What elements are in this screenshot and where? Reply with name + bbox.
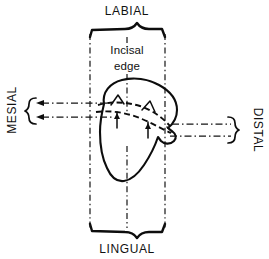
label-incisal-edge-line1: Incisal bbox=[110, 44, 143, 56]
mamelon-tick-mesial bbox=[114, 112, 120, 128]
label-incisal-edge-line2: edge bbox=[114, 60, 140, 72]
label-distal: DISTAL bbox=[251, 108, 265, 153]
tooth-diagram-figure: LABIAL LINGUAL MESIAL DISTAL Incisal edg… bbox=[0, 0, 269, 259]
incisal-edge-ridge bbox=[98, 102, 170, 126]
lingual-brace bbox=[90, 224, 165, 238]
label-labial: LABIAL bbox=[105, 4, 149, 18]
labial-brace bbox=[90, 23, 165, 37]
incisal-edge-ridge-lower bbox=[96, 111, 171, 133]
distal-arrow-group bbox=[170, 117, 239, 143]
mamelon-tick-distal bbox=[145, 122, 151, 138]
label-lingual: LINGUAL bbox=[99, 242, 155, 256]
diagram-canvas: LABIAL LINGUAL MESIAL DISTAL Incisal edg… bbox=[0, 0, 269, 259]
label-mesial: MESIAL bbox=[5, 86, 19, 134]
